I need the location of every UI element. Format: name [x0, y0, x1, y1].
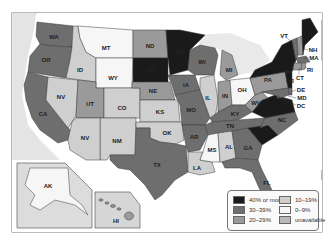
legend-item-unavailable: unavailable: [279, 216, 325, 224]
label-NJ: NJ: [286, 78, 294, 84]
label-AR: AR: [190, 134, 199, 140]
label-VT: VT: [280, 33, 288, 39]
label-TX: TX: [153, 162, 161, 168]
map-legend: 40% or more 30–39% 20–29% 10–19% 0–9% un…: [227, 190, 319, 231]
label-HI: HI: [113, 218, 119, 224]
label-MN: MN: [175, 49, 184, 55]
legend-label: 10–19%: [295, 197, 317, 203]
label-KY: KY: [231, 111, 239, 117]
legend-item-40plus: 40% or more: [233, 196, 283, 204]
label-OR: OR: [42, 57, 52, 63]
legend-item-0-9: 0–9%: [279, 206, 310, 214]
label-WI: WI: [198, 59, 206, 65]
legend-swatch: [233, 206, 245, 214]
label-MD: MD: [297, 95, 307, 101]
legend-item-10-19: 10–19%: [279, 196, 317, 204]
label-DE: DE: [297, 87, 305, 93]
legend-label: 0–9%: [295, 207, 310, 213]
label-MO: MO: [186, 107, 196, 113]
label-NC: NC: [278, 117, 287, 123]
state-WY[interactable]: [96, 58, 133, 88]
label-UT: UT: [86, 101, 94, 107]
label-NM: NM: [112, 138, 121, 144]
legend-swatch: [279, 206, 291, 214]
state-DC[interactable]: [277, 96, 279, 98]
label-KS: KS: [156, 109, 164, 115]
label-MS: MS: [208, 147, 217, 153]
label-NH: NH: [309, 47, 318, 53]
label-PA: PA: [264, 77, 273, 83]
label-LA: LA: [193, 165, 202, 171]
label-OH: OH: [238, 87, 247, 93]
label-MT: MT: [102, 45, 111, 51]
legend-label: unavailable: [295, 217, 325, 223]
label-RI: RI: [307, 67, 313, 73]
label-SD: SD: [146, 67, 155, 73]
label-DC: DC: [297, 103, 306, 109]
label-MA: MA: [309, 55, 319, 61]
label-NV: NV: [57, 94, 65, 100]
legend-swatch: [233, 216, 245, 224]
label-ID: ID: [77, 67, 84, 73]
label-NE: NE: [149, 88, 157, 94]
label-WA: WA: [49, 34, 59, 40]
legend-label: 30–39%: [249, 207, 271, 213]
label-ND: ND: [146, 43, 155, 49]
legend-swatch: [279, 216, 291, 224]
label-WV: WV: [251, 100, 261, 106]
label-AK: AK: [44, 183, 53, 189]
state-CO[interactable]: [104, 88, 140, 118]
label-NV2: NV: [81, 135, 89, 141]
legend-item-30-39: 30–39%: [233, 206, 271, 214]
label-CO: CO: [118, 105, 127, 111]
legend-item-20-29: 20–29%: [233, 216, 271, 224]
legend-swatch: [279, 196, 291, 204]
label-IA: IA: [183, 82, 190, 88]
label-OK: OK: [163, 130, 173, 136]
label-WY: WY: [108, 75, 118, 81]
label-IN: IN: [222, 93, 228, 99]
label-CT: CT: [296, 75, 304, 81]
label-FL: FL: [263, 180, 271, 186]
label-TN: TN: [226, 123, 234, 129]
label-CA: CA: [39, 111, 48, 117]
label-IL: IL: [205, 95, 211, 101]
legend-swatch: [233, 196, 245, 204]
label-GA: GA: [244, 145, 254, 151]
label-MI: MI: [226, 67, 233, 73]
label-AL: AL: [225, 144, 233, 150]
legend-label: 20–29%: [249, 217, 271, 223]
state-CT[interactable]: [293, 63, 302, 70]
